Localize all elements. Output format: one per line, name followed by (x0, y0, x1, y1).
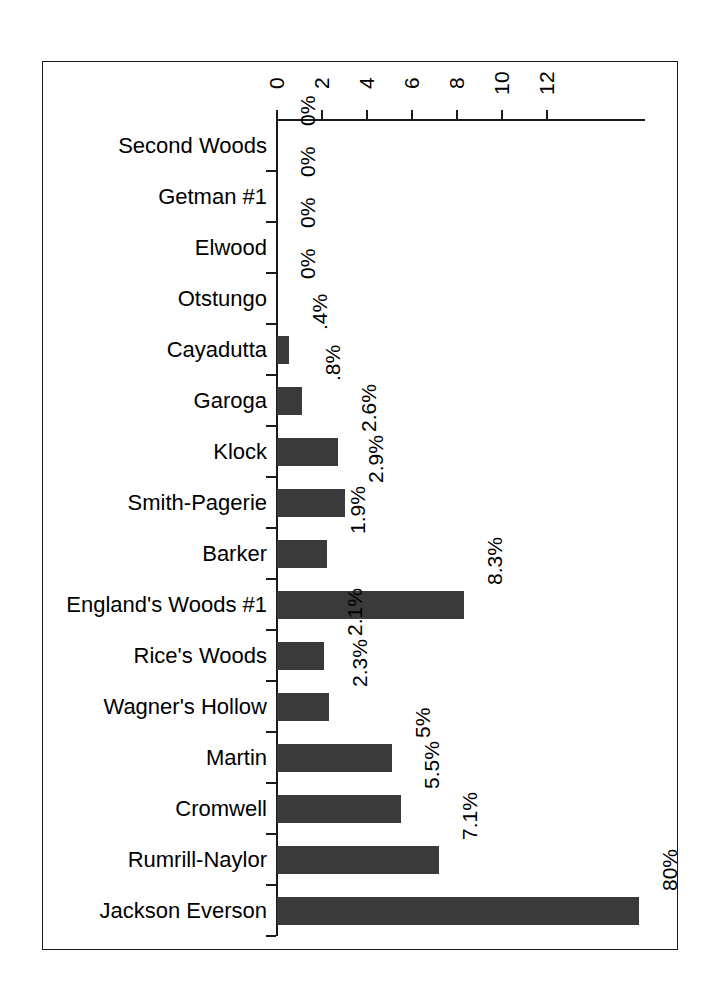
x-axis-line (277, 119, 645, 121)
y-axis-tick (266, 782, 276, 784)
x-axis-tick (546, 110, 548, 120)
bar-value-label: 80% (659, 848, 680, 890)
category-label: Barker (0, 543, 267, 565)
bar (277, 540, 327, 568)
bar (277, 336, 289, 364)
y-axis-tick (266, 680, 276, 682)
bar (277, 591, 464, 619)
y-axis-tick (266, 935, 276, 937)
bar-value-label: 5.5% (421, 741, 442, 789)
bar-value-label: 5% (412, 707, 433, 737)
y-axis-tick (266, 629, 276, 631)
bar (277, 897, 639, 925)
bar (277, 744, 392, 772)
x-axis-tick-label: 0 (254, 60, 300, 106)
bar (277, 438, 338, 466)
bar (277, 846, 439, 874)
y-axis-tick (266, 476, 276, 478)
category-label: Martin (0, 747, 267, 769)
bar-value-label: .4% (309, 293, 330, 329)
x-axis-tick-label: 8 (434, 60, 480, 106)
category-label: Elwood (0, 237, 267, 259)
bar-value-label: 0% (297, 146, 318, 176)
y-axis-tick (266, 884, 276, 886)
bar-value-label: 8.3% (484, 537, 505, 585)
category-label: Cayadutta (0, 339, 267, 361)
category-label: Garoga (0, 390, 267, 412)
bar-value-label: 2.6% (358, 384, 379, 432)
x-axis-tick (456, 110, 458, 120)
category-label: Second Woods (0, 135, 267, 157)
x-axis-tick (276, 110, 278, 120)
bar (277, 642, 324, 670)
category-label: Otstungo (0, 288, 267, 310)
bar (277, 693, 329, 721)
x-axis-tick (366, 110, 368, 120)
x-axis-tick-label: 10 (479, 60, 525, 106)
x-axis-tick-label: 6 (389, 60, 435, 106)
bar-value-label: .8% (322, 344, 343, 380)
x-axis-tick-label: 12 (524, 60, 570, 106)
bar (277, 795, 401, 823)
category-label: Getman #1 (0, 186, 267, 208)
y-axis-tick (266, 425, 276, 427)
category-label: Wagner's Hollow (0, 696, 267, 718)
bar-value-label: 2.1% (344, 588, 365, 636)
bar-value-label: 2.3% (349, 639, 370, 687)
y-axis-tick (266, 527, 276, 529)
bar-value-label: 7.1% (459, 792, 480, 840)
y-axis-tick (266, 221, 276, 223)
y-axis-tick (266, 374, 276, 376)
category-label: Cromwell (0, 798, 267, 820)
bar-value-label: 1.9% (347, 486, 368, 534)
y-axis-tick (266, 578, 276, 580)
bar-value-label: 0% (297, 197, 318, 227)
bar-value-label: 2.9% (365, 435, 386, 483)
y-axis-tick (266, 731, 276, 733)
y-axis-tick (266, 323, 276, 325)
x-axis-tick (501, 110, 503, 120)
category-label: Rice's Woods (0, 645, 267, 667)
y-axis-tick (266, 272, 276, 274)
category-label: England's Woods #1 (0, 594, 267, 616)
y-axis-tick (266, 833, 276, 835)
bar-value-label: 0% (297, 248, 318, 278)
bar (277, 387, 302, 415)
category-label: Klock (0, 441, 267, 463)
y-axis-tick (266, 170, 276, 172)
bar (277, 489, 345, 517)
bar-chart-figure: 024681012 Second WoodsGetman #1ElwoodOts… (0, 0, 711, 995)
category-label: Jackson Everson (0, 900, 267, 922)
x-axis-tick-label: 4 (344, 60, 390, 106)
category-label: Smith-Pagerie (0, 492, 267, 514)
bar-value-label: 0% (297, 95, 318, 125)
x-axis-tick (411, 110, 413, 120)
x-axis-tick (321, 110, 323, 120)
category-label: Rumrill-Naylor (0, 849, 267, 871)
